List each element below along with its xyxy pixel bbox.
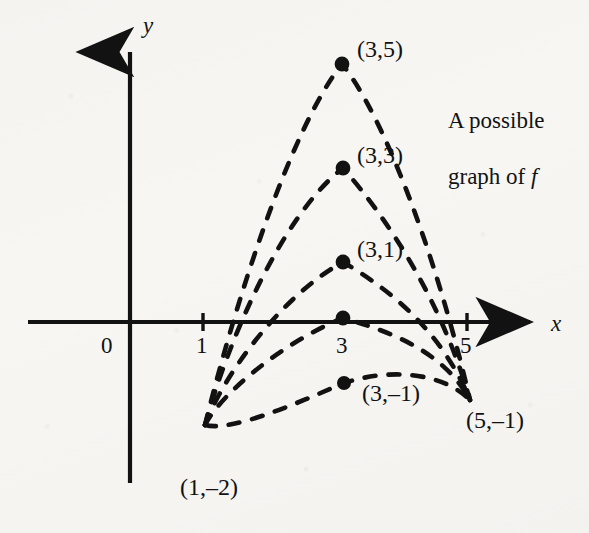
x-tick-label-3: 3 <box>336 334 348 357</box>
caption-function-symbol: f <box>531 164 537 189</box>
graph-caption: A possible graph of f <box>448 79 544 191</box>
point-3-5 <box>335 57 350 72</box>
point-3-3 <box>336 161 351 176</box>
point-3-0 <box>336 311 351 326</box>
y-axis-label: y <box>143 14 153 37</box>
point-label-3-3: (3,3) <box>357 143 403 167</box>
point-label-3-neg1: (3,–1) <box>362 381 420 405</box>
curve-through-3-5 <box>205 64 470 425</box>
x-tick-label-1: 1 <box>196 334 208 357</box>
point-label-3-1: (3,1) <box>357 237 403 261</box>
point-label-1-neg2: (1,–2) <box>180 475 238 499</box>
figure-canvas: y x 0 1 3 5 (3,5) (3,3) (3,1) (3,–1) (1,… <box>0 0 589 533</box>
origin-label: 0 <box>101 334 113 357</box>
x-tick-label-5: 5 <box>460 334 472 357</box>
point-label-3-5: (3,5) <box>357 37 403 61</box>
point-3-1 <box>336 255 351 270</box>
dashed-curve-group <box>205 64 470 426</box>
caption-line-1: A possible <box>448 108 544 133</box>
curve-through-3-3 <box>205 168 470 425</box>
x-axis-label: x <box>551 312 561 335</box>
point-label-5-neg1: (5,–1) <box>466 408 524 432</box>
caption-line-2-prefix: graph of <box>448 164 531 189</box>
point-3-neg1 <box>337 376 351 390</box>
